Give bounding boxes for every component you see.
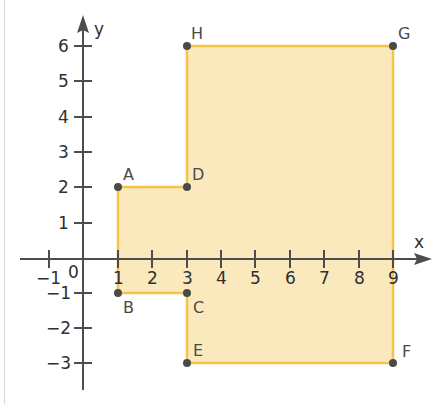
- x-tick-label: 5: [250, 268, 261, 288]
- shaded-region: [118, 46, 393, 363]
- y-tick-label: −1: [46, 283, 71, 303]
- y-axis-label: y: [94, 19, 104, 39]
- y-tick-label: 1: [58, 213, 69, 233]
- coordinate-plane: x y −1 0 1 2 3 4 5 6 7 8 9 6 5 4 3 2 1 −…: [0, 0, 448, 404]
- x-tick-label: 2: [147, 268, 158, 288]
- point-d: [183, 183, 191, 191]
- x-tick-label: 7: [319, 268, 330, 288]
- point-c: [183, 289, 191, 297]
- point-label-a: A: [123, 165, 134, 184]
- x-axis-label: x: [414, 232, 424, 252]
- x-tick-label: 9: [388, 268, 399, 288]
- y-axis: [74, 15, 92, 390]
- point-label-f: F: [402, 342, 411, 361]
- point-e: [183, 359, 191, 367]
- point-label-h: H: [191, 24, 203, 43]
- x-tick-label: 3: [182, 268, 193, 288]
- origin-label: 0: [68, 262, 79, 282]
- y-tick-label: 4: [58, 107, 69, 127]
- y-tick-label: 3: [58, 142, 69, 162]
- point-label-e: E: [193, 341, 203, 360]
- point-label-d: D: [192, 165, 204, 184]
- x-tick-label: 8: [354, 268, 365, 288]
- point-b: [114, 289, 122, 297]
- point-label-c: C: [193, 298, 204, 317]
- y-tick-label: 5: [58, 71, 69, 91]
- x-tick-label: 6: [285, 268, 296, 288]
- point-label-g: G: [398, 24, 410, 43]
- y-tick-label: −3: [46, 353, 71, 373]
- point-h: [183, 42, 191, 50]
- point-a: [114, 183, 122, 191]
- point-f: [389, 359, 397, 367]
- y-tick-label: 2: [58, 177, 69, 197]
- point-label-b: B: [123, 298, 134, 317]
- x-tick-label: 1: [113, 268, 124, 288]
- y-tick-label: −2: [46, 318, 71, 338]
- y-tick-label: 6: [58, 36, 69, 56]
- x-tick-label: 4: [216, 268, 227, 288]
- point-g: [389, 42, 397, 50]
